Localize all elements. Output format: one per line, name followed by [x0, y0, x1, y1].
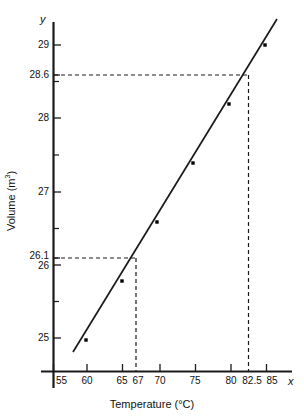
- x-major-ticks: [54, 364, 267, 372]
- x-tick-label-80: 80: [224, 376, 238, 386]
- chart-figure: y x 29 28.6 28 27 26.1 26 25 55 60 65 67…: [0, 0, 304, 420]
- data-point: [263, 43, 266, 46]
- y-tick-label-28: 28: [0, 113, 49, 123]
- data-point: [191, 161, 194, 164]
- y-axis-symbol: y: [40, 14, 46, 25]
- y-tick-label-29: 29: [0, 40, 49, 50]
- y-axis-title-exponent: 3: [4, 175, 11, 179]
- x-axis-title: Temperature (°C): [0, 398, 304, 410]
- x-tick-label-82-5: 82.5: [240, 376, 264, 386]
- data-point: [227, 102, 230, 105]
- x-tick-label-65: 65: [115, 376, 129, 386]
- data-point: [120, 279, 123, 282]
- y-major-ticks: [54, 45, 62, 338]
- chart-plot-area: [0, 0, 304, 420]
- y-tick-label-26: 26: [0, 261, 49, 271]
- x-tick-label-70: 70: [153, 376, 167, 386]
- y-tick-label-25: 25: [0, 333, 49, 343]
- y-tick-label-28-6: 28.6: [0, 70, 49, 80]
- x-tick-label-55: 55: [56, 376, 67, 386]
- data-line: [73, 19, 277, 352]
- x-tick-label-67: 67: [131, 376, 145, 386]
- data-point-markers: [84, 43, 266, 341]
- y-axis-title-prefix: Volume (m: [5, 179, 17, 232]
- x-tick-label-60: 60: [80, 376, 94, 386]
- y-axis-title: Volume (m3): [5, 146, 17, 256]
- data-point: [84, 338, 87, 341]
- x-tick-label-75: 75: [188, 376, 202, 386]
- x-tick-label-85: 85: [265, 376, 279, 386]
- x-axis-symbol: x: [288, 376, 294, 387]
- y-axis-title-suffix: ): [5, 171, 17, 175]
- data-point: [155, 220, 158, 223]
